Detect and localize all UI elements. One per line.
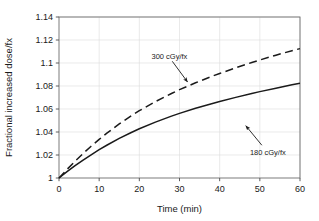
y-tick-label: 1.08 [35,81,53,91]
x-tick-label: 60 [295,184,305,194]
y-tick-label: 1.14 [35,12,53,22]
chart-canvas: 0102030405060 11.021.041.061.081.11.121.… [0,0,319,221]
chart-figure: 0102030405060 11.021.041.061.081.11.121.… [0,0,319,221]
y-tick-label: 1.02 [35,150,53,160]
x-tick-label: 40 [215,184,225,194]
y-axis-tick-labels: 11.021.041.061.081.11.121.14 [35,12,53,183]
y-axis-tick-marks [56,17,59,178]
x-axis-title: Time (min) [157,203,202,214]
x-axis-tick-labels: 0102030405060 [56,184,305,194]
y-tick-label: 1.04 [35,127,53,137]
x-tick-label: 30 [174,184,184,194]
y-tick-label: 1 [48,173,53,183]
y-axis-title: Fractional increased dose/fx [3,38,14,157]
x-tick-label: 20 [134,184,144,194]
y-tick-label: 1.1 [40,58,53,68]
x-tick-label: 10 [94,184,104,194]
x-tick-label: 0 [56,184,61,194]
y-tick-label: 1.12 [35,35,53,45]
x-axis-tick-marks [59,178,300,181]
annotation-label: 300 cGy/fx [152,52,188,61]
x-tick-label: 50 [255,184,265,194]
y-tick-label: 1.06 [35,104,53,114]
annotation-label: 180 cGy/fx [250,148,286,157]
